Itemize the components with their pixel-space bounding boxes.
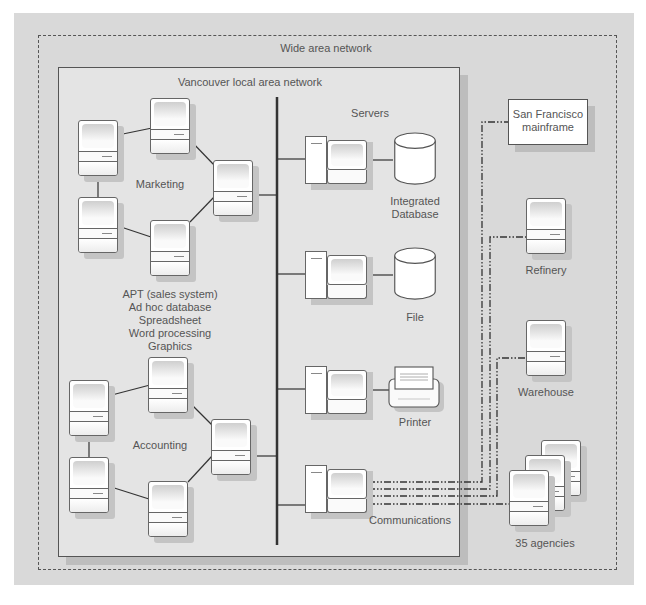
file-storage-cylinder-icon: [393, 247, 437, 301]
marketing-pc-1: [78, 120, 118, 176]
marketing-pc-4: [150, 220, 190, 276]
refinery-label: Refinery: [516, 264, 576, 277]
database-cylinder-icon: [393, 132, 437, 186]
app-adhoc-db: Ad hoc database: [100, 301, 240, 314]
app-word-processing: Word processing: [100, 327, 240, 340]
db-server: [305, 136, 369, 186]
accounting-pc-1: [69, 380, 109, 436]
print-server: [305, 366, 369, 416]
printer-label: Printer: [390, 416, 440, 429]
app-apt: APT (sales system): [100, 288, 240, 301]
accounting-pc-4: [148, 481, 188, 537]
agency-pc-1: [509, 470, 549, 526]
app-spreadsheet: Spreadsheet: [100, 314, 240, 327]
servers-label: Servers: [330, 107, 410, 120]
marketing-pc-3: [78, 197, 118, 253]
accounting-label: Accounting: [120, 439, 200, 452]
warehouse-label: Warehouse: [511, 386, 581, 399]
san-francisco-mainframe: San Francisco mainframe: [508, 99, 588, 145]
printer-icon: [388, 366, 444, 412]
marketing-label: Marketing: [125, 178, 195, 191]
applications-list: APT (sales system) Ad hoc database Sprea…: [100, 288, 240, 353]
file-label: File: [395, 311, 435, 324]
accounting-hub-pc: [211, 419, 251, 475]
warehouse-pc: [526, 320, 566, 376]
accounting-pc-2: [148, 357, 188, 413]
integrated-database-label: Integrated Database: [380, 195, 450, 221]
app-graphics: Graphics: [100, 340, 240, 353]
refinery-pc: [526, 198, 566, 254]
communications-server: [305, 465, 369, 515]
marketing-hub-pc: [213, 160, 253, 216]
accounting-pc-3: [69, 457, 109, 513]
agencies-label: 35 agencies: [505, 537, 585, 550]
communications-label: Communications: [365, 514, 455, 527]
marketing-pc-2: [150, 98, 190, 154]
file-server: [305, 251, 369, 301]
